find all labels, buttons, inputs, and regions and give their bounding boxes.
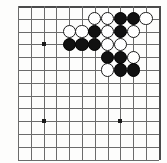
stone-white-g1 xyxy=(139,12,152,25)
stone-white-a2 xyxy=(63,25,76,38)
board-stones xyxy=(0,0,167,163)
stone-black-c3 xyxy=(88,38,101,51)
go-board-diagram xyxy=(0,0,167,163)
stone-black-e1 xyxy=(114,12,127,25)
stone-black-f1 xyxy=(127,12,140,25)
stone-white-e3 xyxy=(114,38,127,51)
stone-white-b2 xyxy=(75,25,88,38)
stone-white-d5 xyxy=(101,63,114,76)
stone-white-d3 xyxy=(101,38,114,51)
stone-white-d2 xyxy=(101,25,114,38)
stone-black-e4 xyxy=(114,51,127,64)
stone-black-b3 xyxy=(75,38,88,51)
stone-black-f5 xyxy=(127,63,140,76)
stone-white-d1 xyxy=(101,12,114,25)
stone-white-f4 xyxy=(127,51,140,64)
stone-black-d4 xyxy=(101,51,114,64)
stone-white-c1 xyxy=(88,12,101,25)
stone-white-f2 xyxy=(127,25,140,38)
stone-black-e5 xyxy=(114,63,127,76)
stone-black-c2 xyxy=(88,25,101,38)
stone-black-a3 xyxy=(63,38,76,51)
stone-black-e2 xyxy=(114,25,127,38)
